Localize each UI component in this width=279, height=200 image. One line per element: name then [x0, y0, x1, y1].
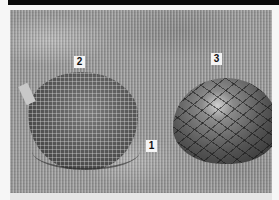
callout-2: 2 — [74, 56, 85, 68]
helmet-strap — [18, 83, 36, 105]
callout-1: 1 — [146, 140, 157, 152]
helmet-brim — [32, 132, 140, 170]
callout-3: 3 — [211, 53, 222, 65]
bottom-strip — [10, 193, 272, 200]
top-black-bar — [8, 0, 279, 5]
helmet-coarse-net — [173, 78, 272, 164]
helmet-fine-mesh — [28, 72, 138, 170]
photograph — [10, 10, 272, 193]
